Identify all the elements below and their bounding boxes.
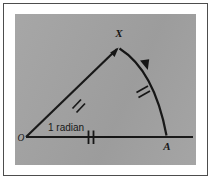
diagram-plate: O X A 1 radian bbox=[15, 14, 196, 165]
label-angle: 1 radian bbox=[48, 122, 84, 133]
label-apex: X bbox=[114, 27, 123, 39]
label-base-point: A bbox=[162, 140, 170, 152]
tick-marks-arc bbox=[137, 86, 151, 98]
radian-diagram: O X A 1 radian bbox=[15, 14, 196, 165]
figure-root: O X A 1 radian bbox=[0, 0, 211, 179]
label-origin: O bbox=[18, 133, 25, 143]
tick-marks-ox bbox=[73, 100, 86, 113]
